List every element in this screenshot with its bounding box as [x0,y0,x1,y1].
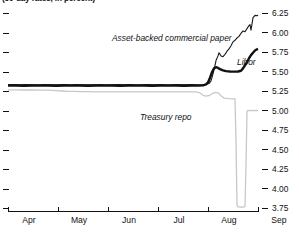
y-axis-tick-mark [262,130,268,131]
x-axis-line [8,211,258,212]
series-line [8,90,258,207]
series-label: Asset-backed commercial paper [112,34,232,42]
y-axis-tick-mark [262,91,268,92]
x-axis-tick-mark [208,207,209,212]
x-axis-tick-mark [158,207,159,212]
series-label: Libor [237,58,256,66]
series-label: Treasury repo [140,113,192,121]
x-axis-tick-mark [108,207,109,212]
x-axis-tick-mark [258,207,259,212]
y-axis-tick-mark [262,13,268,14]
y-axis-tick-label: 5.00 [272,107,288,115]
y-axis-tick-label: 5.25 [272,87,288,95]
y-axis-left-dash [3,33,9,34]
x-axis-tick-label: Apr [22,215,35,225]
y-axis-tick-mark [262,149,268,150]
y-axis-tick-mark [262,52,268,53]
y-axis-left-dash [3,130,9,131]
y-axis-tick-label: 3.75 [272,204,288,212]
y-axis-tick-mark [262,71,268,72]
series-line [8,15,258,85]
y-axis-left-dash [3,189,9,190]
y-axis-left-dash [3,72,9,73]
y-axis-tick-label: 6.25 [272,9,288,17]
y-axis-left-dash [3,52,9,53]
y-axis-tick-mark [262,188,268,189]
y-axis-left-dash [3,13,9,14]
y-axis-tick-mark [262,169,268,170]
x-axis-tick-label: Aug [221,215,236,225]
y-axis-left-dash [3,169,9,170]
y-axis-tick-label: 6.00 [272,29,288,37]
x-axis-tick-mark [8,207,9,212]
y-axis-tick-mark [262,208,268,209]
y-axis-left-dash [3,150,9,151]
chart-container: (30-day rates, in percent) 6.256.005.755… [0,0,299,237]
x-axis-tick-label: May [71,215,87,225]
y-axis-tick-label: 4.00 [272,185,288,193]
y-axis-tick-label: 4.25 [272,165,288,173]
y-axis-left-dash [3,91,9,92]
x-axis-tick-label: Jul [174,215,185,225]
y-axis-tick-mark [262,32,268,33]
x-axis-tick-label: Jun [122,215,136,225]
y-axis-left-dash [3,111,9,112]
y-axis-tick-label: 4.75 [272,126,288,134]
x-axis-tick-mark [58,207,59,212]
x-axis-tick-label: Sep [271,215,286,225]
y-axis-tick-label: 5.50 [272,68,288,76]
y-axis-tick-label: 5.75 [272,48,288,56]
y-axis-tick-mark [262,110,268,111]
y-axis-tick-label: 4.50 [272,146,288,154]
